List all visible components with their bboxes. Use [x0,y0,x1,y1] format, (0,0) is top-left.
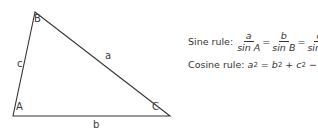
cosine-rule: Cosine rule: a2 = b2 + c2 − 2bc cos A [188,59,318,70]
fraction-a: a sin A [237,30,260,53]
vertex-label-c: C [152,101,159,112]
side-label-a: a [105,50,111,61]
vertex-label-a: A [16,101,23,112]
sine-rule-label: Sine rule: [188,36,233,47]
side-label-c: c [17,58,23,69]
sine-rule: Sine rule: a sin A = b sin B = c sin C [188,30,318,53]
fraction-b: b sin B [272,30,295,53]
side-label-b: b [93,119,99,130]
triangle-shape [13,12,170,116]
fraction-c: c sin C [307,30,318,53]
cosine-rule-label: Cosine rule: [188,59,245,70]
vertex-label-b: B [34,13,41,24]
